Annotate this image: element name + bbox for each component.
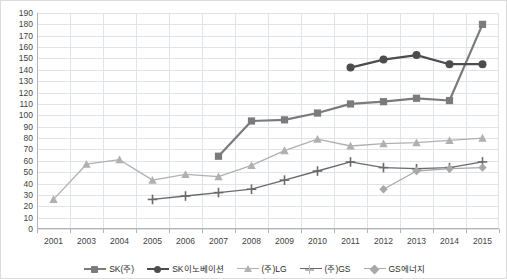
series-marker-4: [379, 185, 387, 193]
y-tick-label: 70: [24, 145, 33, 154]
y-tick-label: 90: [24, 122, 33, 131]
y-tick-label: 10: [24, 213, 33, 222]
x-tick-label: 2005: [143, 237, 162, 246]
legend-swatch-icon: [364, 264, 386, 274]
y-tick-label: 150: [19, 54, 33, 63]
series-marker-0: [281, 116, 288, 123]
legend-item-2[interactable]: (주)LG: [237, 264, 287, 274]
legend-label: SK(주): [109, 265, 134, 274]
x-tick-mark: [136, 229, 137, 233]
series-lines: [37, 13, 499, 229]
x-tick-label: 2015: [473, 237, 492, 246]
x-tick-label: 2007: [209, 237, 228, 246]
chart-container: 0102030405060708090100110120130140150160…: [0, 0, 507, 279]
series-marker-1: [413, 51, 421, 59]
legend-swatch-icon: [147, 264, 169, 274]
series-marker-1: [479, 60, 487, 68]
y-tick-label: 130: [19, 77, 33, 86]
chart-title: [1, 1, 507, 10]
series-marker-3: [247, 184, 257, 194]
y-tick-label: 140: [19, 66, 33, 75]
x-tick-mark: [70, 229, 71, 233]
y-tick-label: 160: [19, 43, 33, 52]
y-tick-label: 180: [19, 20, 33, 29]
series-marker-0: [479, 21, 486, 28]
legend-swatch-icon: [300, 264, 322, 274]
series-marker-1: [380, 56, 388, 64]
x-tick-label: 2014: [440, 237, 459, 246]
series-marker-0: [314, 109, 321, 116]
legend-swatch-icon: [237, 264, 259, 274]
series-marker-3: [346, 157, 356, 167]
x-tick-mark: [268, 229, 269, 233]
x-tick-label: 2004: [110, 237, 129, 246]
series-marker-3: [214, 188, 224, 198]
series-marker-2: [115, 155, 123, 163]
series-marker-1: [347, 64, 355, 72]
y-tick-label: 190: [19, 9, 33, 18]
y-tick-label: 100: [19, 111, 33, 120]
x-tick-mark: [103, 229, 104, 233]
plot-area: 0102030405060708090100110120130140150160…: [37, 13, 499, 229]
legend-label: (주)GS: [325, 265, 351, 274]
chart-legend: SK(주)SK이노베이션(주)LG(주)GSGS에너지: [1, 264, 507, 274]
series-marker-3: [181, 191, 191, 201]
x-tick-label: 2008: [242, 237, 261, 246]
y-tick-label: 30: [24, 191, 33, 200]
y-tick-label: 50: [24, 168, 33, 177]
series-marker-3: [280, 175, 290, 185]
y-tick-label: 60: [24, 157, 33, 166]
x-tick-mark: [499, 229, 500, 233]
legend-item-1[interactable]: SK이노베이션: [147, 264, 223, 274]
x-tick-mark: [367, 229, 368, 233]
series-marker-0: [380, 98, 387, 105]
x-tick-label: 2001: [44, 237, 63, 246]
legend-item-0[interactable]: SK(주): [84, 264, 134, 274]
series-marker-1: [446, 60, 454, 68]
y-tick-label: 120: [19, 88, 33, 97]
x-tick-label: 2011: [341, 237, 359, 246]
x-tick-label: 2003: [77, 237, 96, 246]
x-tick-mark: [334, 229, 335, 233]
series-marker-0: [446, 97, 453, 104]
y-tick-label: 20: [24, 202, 33, 211]
y-tick-label: 40: [24, 179, 33, 188]
series-marker-0: [248, 117, 255, 124]
x-tick-mark: [235, 229, 236, 233]
legend-item-4[interactable]: GS에너지: [364, 264, 425, 274]
series-line-4: [384, 168, 483, 190]
series-marker-4: [445, 165, 453, 173]
x-tick-label: 2010: [308, 237, 327, 246]
series-marker-0: [413, 95, 420, 102]
legend-label: SK이노베이션: [172, 265, 223, 274]
x-tick-label: 2009: [275, 237, 294, 246]
y-tick-label: 80: [24, 134, 33, 143]
x-tick-mark: [301, 229, 302, 233]
series-marker-3: [313, 166, 323, 176]
series-marker-0: [215, 153, 222, 160]
x-tick-mark: [202, 229, 203, 233]
x-tick-mark: [169, 229, 170, 233]
series-marker-4: [478, 163, 486, 171]
series-line-0: [219, 24, 483, 156]
x-tick-label: 2012: [374, 237, 393, 246]
x-tick-mark: [37, 229, 38, 233]
series-marker-2: [313, 135, 321, 143]
x-tick-mark: [466, 229, 467, 233]
legend-swatch-icon: [84, 264, 106, 274]
legend-label: (주)LG: [262, 265, 287, 274]
series-marker-3: [148, 195, 158, 205]
y-tick-label: 0: [28, 225, 33, 234]
y-tick-label: 110: [19, 100, 33, 109]
legend-item-3[interactable]: (주)GS: [300, 264, 351, 274]
series-marker-3: [379, 163, 389, 173]
x-tick-label: 2006: [176, 237, 195, 246]
legend-label: GS에너지: [389, 265, 425, 274]
x-tick-mark: [400, 229, 401, 233]
x-tick-mark: [433, 229, 434, 233]
y-tick-label: 170: [19, 31, 33, 40]
series-marker-0: [347, 100, 354, 107]
x-tick-label: 2013: [407, 237, 426, 246]
series-marker-2: [247, 161, 255, 169]
